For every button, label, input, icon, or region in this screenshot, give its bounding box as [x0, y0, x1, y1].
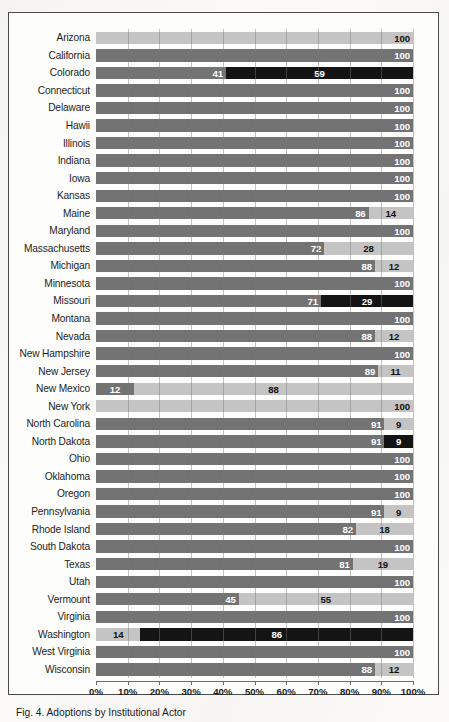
scanned-page: Arizona100California100Colorado4159Conne…	[0, 0, 449, 722]
bar-track: 1486	[96, 628, 413, 640]
row-label-texas: Texas	[9, 559, 96, 570]
row-label-massachusetts: Massachusetts	[9, 243, 96, 254]
bar-value-label: 9	[396, 506, 401, 517]
bar-segment-initiative: 86	[140, 628, 413, 640]
x-tick-label-80: 80%	[340, 686, 359, 697]
row-label-kansas: Kansas	[9, 190, 96, 201]
bar-value-label: 72	[311, 243, 321, 254]
row-label-delaware: Delaware	[9, 102, 96, 113]
bar-track: 8911	[96, 365, 413, 377]
bar-segment-legislative: 91	[96, 505, 384, 517]
bar-segment-regulatory: 19	[353, 558, 413, 570]
bar-track: 100	[96, 611, 413, 623]
x-tick-90	[381, 681, 382, 685]
x-tick-20	[159, 681, 160, 685]
bar-track: 8218	[96, 523, 413, 535]
bar-segment-legislative: 45	[96, 593, 239, 605]
row-label-north-carolina: North Carolina	[9, 418, 96, 429]
bar-value-label: 100	[394, 401, 410, 412]
x-tick-label-50: 50%	[245, 686, 264, 697]
bar-segment-regulatory: 88	[134, 383, 413, 395]
row-label-new-mexico: New Mexico	[9, 383, 96, 394]
chart-row: Missouri7129	[9, 292, 438, 310]
row-label-rhode-island: Rhode Island	[9, 524, 96, 535]
bar-segment-legislative: 100	[96, 347, 413, 359]
bar-segment-regulatory: 14	[96, 628, 140, 640]
bar-value-label: 82	[342, 524, 352, 535]
bar-segment-legislative: 100	[96, 646, 413, 658]
bar-track: 100	[96, 84, 413, 96]
bar-track: 100	[96, 102, 413, 114]
bar-segment-legislative: 100	[96, 312, 413, 324]
bar-value-label: 100	[394, 173, 410, 184]
bar-track: 919	[96, 435, 413, 447]
chart-row: West Virginia100	[9, 643, 438, 661]
bar-track: 100	[96, 137, 413, 149]
bar-value-label: 12	[389, 664, 399, 675]
bar-track: 8812	[96, 330, 413, 342]
chart-row: New Mexico1288	[9, 380, 438, 398]
bar-value-label: 11	[391, 366, 401, 377]
bar-track: 100	[96, 400, 413, 412]
chart-row: Iowa100	[9, 169, 438, 187]
x-tick-100	[413, 681, 414, 685]
bar-value-label: 59	[314, 67, 324, 78]
x-tick-label-30: 30%	[181, 686, 200, 697]
bar-value-label: 100	[394, 348, 410, 359]
bar-value-label: 88	[361, 260, 371, 271]
bar-value-label: 12	[389, 331, 399, 342]
bar-value-label: 12	[110, 383, 120, 394]
bar-track: 100	[96, 347, 413, 359]
bar-segment-legislative: 100	[96, 119, 413, 131]
chart-row: Pennsylvania919	[9, 503, 438, 521]
row-label-oregon: Oregon	[9, 488, 96, 499]
bar-value-label: 88	[361, 331, 371, 342]
chart-rows: Arizona100California100Colorado4159Conne…	[9, 29, 438, 678]
chart-row: Montana100	[9, 310, 438, 328]
bar-value-label: 100	[394, 225, 410, 236]
bar-segment-regulatory: 9	[384, 418, 413, 430]
bar-track: 8812	[96, 260, 413, 272]
row-label-hawii: Hawii	[9, 120, 96, 131]
bar-segment-legislative: 100	[96, 84, 413, 96]
x-tick-50	[255, 681, 256, 685]
bar-segment-legislative: 100	[96, 611, 413, 623]
x-tick-label-70: 70%	[308, 686, 327, 697]
bar-track: 100	[96, 190, 413, 202]
bar-segment-legislative: 41	[96, 67, 226, 79]
bar-value-label: 100	[394, 278, 410, 289]
bar-segment-legislative: 72	[96, 242, 324, 254]
bar-track: 100	[96, 470, 413, 482]
bar-segment-regulatory: 100	[96, 400, 413, 412]
bar-segment-legislative: 89	[96, 365, 378, 377]
chart-row: New Hampshire100	[9, 345, 438, 363]
bar-value-label: 100	[394, 85, 410, 96]
bar-track: 100	[96, 277, 413, 289]
bar-segment-initiative: 29	[321, 295, 413, 307]
bar-segment-legislative: 88	[96, 663, 375, 675]
bar-value-label: 86	[271, 629, 281, 640]
row-label-michigan: Michigan	[9, 260, 96, 271]
bar-track: 8614	[96, 207, 413, 219]
bar-value-label: 100	[394, 102, 410, 113]
bar-segment-legislative: 91	[96, 418, 384, 430]
bar-segment-regulatory: 12	[375, 663, 413, 675]
chart-row: Massachusetts7228	[9, 240, 438, 258]
chart-row: South Dakota100	[9, 538, 438, 556]
bar-segment-legislative: 100	[96, 137, 413, 149]
row-label-montana: Montana	[9, 313, 96, 324]
bar-value-label: 55	[321, 594, 331, 605]
chart-row: North Carolina919	[9, 415, 438, 433]
bar-segment-regulatory: 100	[96, 32, 413, 44]
x-tick-10	[128, 681, 129, 685]
row-label-washington: Washington	[9, 629, 96, 640]
bar-value-label: 41	[212, 67, 222, 78]
bar-value-label: 100	[394, 471, 410, 482]
bar-track: 100	[96, 453, 413, 465]
bar-value-label: 89	[365, 366, 375, 377]
bar-value-label: 91	[371, 506, 381, 517]
row-label-new-hampshire: New Hampshire	[9, 348, 96, 359]
bar-value-label: 91	[371, 436, 381, 447]
chart-row: Minnesota100	[9, 275, 438, 293]
x-tick-label-0: 0%	[89, 686, 103, 697]
